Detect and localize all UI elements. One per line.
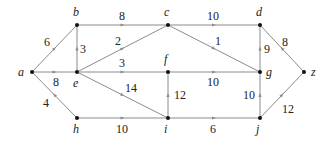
- edge-b-c: 8: [77, 9, 168, 27]
- edge-e-i: 14: [77, 72, 168, 118]
- edge-weight: 12: [174, 88, 186, 102]
- node-label: h: [73, 122, 79, 136]
- node-label: e: [73, 76, 79, 90]
- edge-weight: 3: [119, 56, 125, 70]
- arrow-icon: [258, 47, 261, 51]
- node-label: b: [73, 5, 79, 19]
- edge-e-b: 3: [75, 25, 86, 72]
- node-dot: [302, 70, 306, 74]
- edge-weight: 8: [53, 75, 59, 89]
- edge-weight: 10: [243, 88, 255, 102]
- node-label: c: [164, 5, 170, 19]
- arrow-icon: [166, 93, 169, 97]
- arrow-icon: [212, 116, 216, 119]
- node-dot: [166, 116, 170, 120]
- node-label: i: [164, 122, 167, 136]
- node-label: a: [18, 65, 24, 79]
- arrow-icon: [258, 93, 261, 97]
- arrow-icon: [53, 70, 57, 73]
- edge-a-e: 8: [32, 70, 77, 89]
- edge-weight: 2: [115, 34, 121, 48]
- edge-weight: 8: [282, 35, 288, 49]
- node-c: c: [164, 5, 170, 27]
- edge-j-g: 10: [243, 72, 262, 118]
- node-label: d: [256, 5, 263, 19]
- arrow-icon: [212, 23, 216, 26]
- node-b: b: [73, 5, 79, 27]
- node-label: f: [164, 52, 169, 66]
- node-dot: [166, 70, 170, 74]
- edge-weight: 4: [43, 96, 49, 110]
- node-d: d: [256, 5, 263, 27]
- edge-weight: 8: [119, 9, 125, 23]
- node-e: e: [73, 70, 79, 90]
- node-z: z: [302, 65, 316, 79]
- node-dot: [75, 23, 79, 27]
- node-label: g: [266, 65, 272, 79]
- edge-weight: 10: [116, 122, 128, 136]
- node-label: z: [310, 65, 316, 79]
- graph-diagram: 6848323141010110129106812 abcdefghijz: [0, 0, 332, 142]
- node-i: i: [164, 116, 170, 136]
- node-label: j: [254, 122, 260, 136]
- node-dot: [75, 116, 79, 120]
- edge-weight: 3: [80, 42, 86, 56]
- arrow-icon: [121, 116, 125, 119]
- nodes-layer: abcdefghijz: [18, 5, 316, 136]
- node-dot: [258, 116, 262, 120]
- node-h: h: [73, 116, 79, 136]
- arrow-icon: [121, 70, 125, 73]
- edge-weight: 1: [215, 34, 221, 48]
- node-dot: [30, 70, 34, 74]
- edge-weight: 9: [264, 42, 270, 56]
- edge-i-j: 6: [168, 116, 260, 136]
- edge-f-g: 10: [168, 70, 260, 89]
- node-a: a: [18, 65, 34, 79]
- edge-weight: 10: [207, 75, 219, 89]
- edge-c-d: 10: [168, 9, 260, 27]
- node-dot: [75, 70, 79, 74]
- edge-weight: 10: [207, 9, 219, 23]
- arrow-icon: [212, 70, 216, 73]
- edge-weight: 14: [125, 81, 137, 95]
- arrow-icon: [75, 47, 78, 51]
- node-dot: [258, 23, 262, 27]
- edge-i-f: 12: [166, 72, 186, 118]
- edge-h-i: 10: [77, 116, 168, 136]
- edge-weight: 6: [210, 122, 216, 136]
- node-dot: [258, 70, 262, 74]
- arrow-icon: [121, 23, 125, 26]
- node-j: j: [254, 116, 262, 136]
- node-f: f: [164, 52, 170, 74]
- edge-weight: 12: [282, 102, 294, 116]
- edge-c-g: 1: [168, 25, 260, 72]
- node-dot: [166, 23, 170, 27]
- edge-weight: 6: [44, 35, 50, 49]
- edge-a-b: 6: [32, 25, 77, 72]
